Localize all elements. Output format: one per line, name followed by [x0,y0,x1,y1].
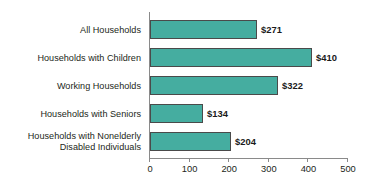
category-label: Households with Seniors [40,109,141,120]
x-axis-tick [307,158,308,162]
bar-value-label: $204 [235,136,256,147]
bar [150,132,231,151]
bar-value-label: $134 [207,108,228,119]
bar-value-label: $410 [316,52,337,63]
x-axis-tick-label: 100 [182,164,198,175]
bar [150,76,278,95]
x-axis-tick [189,158,190,162]
x-axis-tick-label: 0 [147,164,152,175]
category-label-line: Households with Seniors [40,109,141,119]
category-label: Households with Children [37,53,141,64]
x-axis-tick-label: 400 [301,164,317,175]
x-axis-tick-label: 500 [340,164,356,175]
x-axis-tick [268,158,269,162]
x-axis-tick-label: 200 [221,164,237,175]
x-axis-tick [228,158,229,162]
bar [150,20,257,39]
category-axis-labels: All Households Households with Children … [0,12,146,158]
bar [150,104,203,123]
category-label: Working Households [57,81,141,92]
x-axis-tick [149,158,150,162]
bar-value-label: $271 [261,24,282,35]
plot-area: 0 100 200 300 400 500 $271 $410 $322 $13… [150,12,348,158]
category-label: All Households [80,25,141,36]
category-label-line: Working Households [57,81,141,91]
category-label: Households with Nonelderly Disabled Indi… [28,131,141,152]
x-axis-tick-label: 300 [261,164,277,175]
category-label-line: All Households [80,25,141,35]
bar-value-label: $322 [282,80,303,91]
x-axis-tick [347,158,348,162]
bar [150,48,312,67]
horizontal-bar-chart: All Households Households with Children … [0,0,366,186]
x-axis-line [149,158,348,159]
category-label-line: Households with Nonelderly [28,131,141,142]
category-label-line: Disabled Individuals [28,142,141,153]
category-label-line: Households with Children [37,53,141,63]
